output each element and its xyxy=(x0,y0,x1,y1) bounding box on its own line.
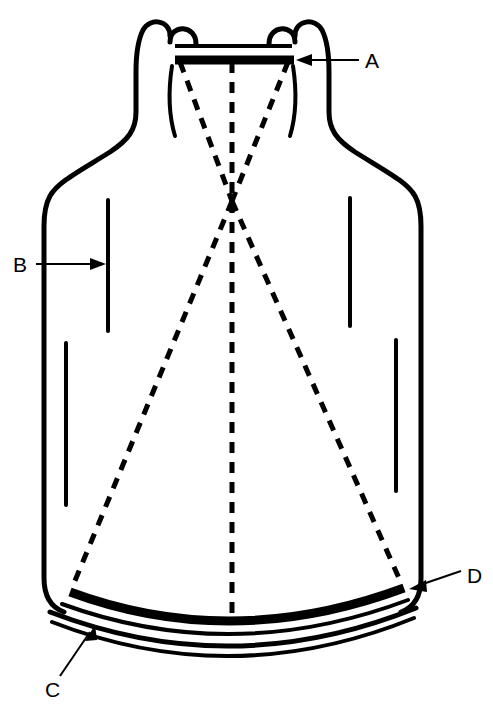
arrowhead-a-icon xyxy=(296,54,312,66)
arrowhead-b-icon xyxy=(90,258,106,270)
outline-right-side xyxy=(295,22,421,612)
callout-label-b: B xyxy=(13,253,27,276)
bottle-bottom-arcs xyxy=(50,588,416,656)
ray-mouth-left-to-focus xyxy=(180,62,232,201)
vacuum-flask-diagram: A B C D xyxy=(0,0,493,709)
neck-lip-right xyxy=(269,29,295,44)
diagram-canvas: A B C D xyxy=(0,0,493,709)
callout-leader-d xyxy=(409,571,461,592)
arrowhead-d-icon xyxy=(409,580,427,592)
ray-mouth-right-to-focus xyxy=(232,62,288,201)
inner-neck-wall-left xyxy=(170,66,175,136)
callout-label-c: C xyxy=(45,678,60,701)
neck-lip-left xyxy=(170,29,196,44)
callout-label-a: A xyxy=(365,49,379,72)
ray-focus-to-bottom-right xyxy=(232,201,402,585)
leader-line-c xyxy=(60,632,90,676)
inner-neck-wall-right xyxy=(290,66,295,136)
callout-label-d: D xyxy=(467,564,482,587)
ray-focus-to-bottom-left xyxy=(72,201,232,588)
